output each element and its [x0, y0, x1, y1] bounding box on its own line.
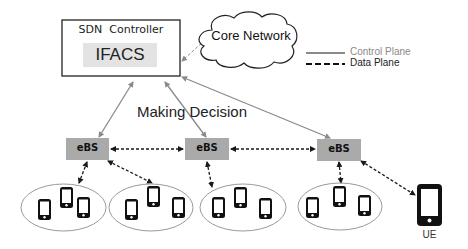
ebs-1-label: eBS	[66, 142, 109, 153]
ue-devices	[38, 186, 371, 220]
ebs-2-label: eBS	[185, 142, 229, 153]
legend	[306, 53, 345, 64]
making-decision-label: Making Decision	[137, 103, 247, 120]
data-links	[79, 149, 415, 195]
ue-label: UE	[417, 229, 442, 240]
cell-groups	[21, 183, 382, 231]
controller-title: SDN Controller	[62, 23, 180, 36]
legend-data-label: Data Plane	[350, 57, 399, 68]
ebs-3-label: eBS	[317, 143, 361, 154]
ifacs-label: IFACS	[83, 45, 157, 65]
control-link-ebs1	[99, 82, 133, 137]
legend-control-label: Control Plane	[350, 46, 411, 57]
ue-phone-icon[interactable]	[417, 184, 442, 226]
core-network-label: Core Network	[206, 28, 296, 43]
